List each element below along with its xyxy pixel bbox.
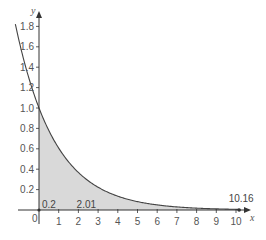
x-tick-label: 9 xyxy=(214,216,220,227)
x-tick-label: 3 xyxy=(95,216,101,227)
y-axis-label: y xyxy=(30,5,36,16)
y-axis-arrow-icon xyxy=(36,11,42,18)
y-tick-label: 1.0 xyxy=(20,103,34,114)
origin-label: 0 xyxy=(32,213,38,224)
shaded-area xyxy=(39,108,239,210)
annotation-label: 0.2 xyxy=(42,199,56,210)
x-tick-label: 8 xyxy=(194,216,200,227)
x-tick-label: 7 xyxy=(174,216,180,227)
y-tick-label: 1.2 xyxy=(20,82,34,93)
x-tick-label: 6 xyxy=(154,216,160,227)
y-tick-label: 0.2 xyxy=(20,184,34,195)
annotation-label: 10.16 xyxy=(229,193,254,204)
y-tick-label: 0.4 xyxy=(20,164,34,175)
x-tick-label: 2 xyxy=(76,216,82,227)
y-tick-label: 1.6 xyxy=(20,41,34,52)
chart: xy0 123456789100.20.40.60.81.01.21.41.61… xyxy=(0,0,266,240)
x-tick-label: 4 xyxy=(115,216,121,227)
x-axis-label: x xyxy=(249,212,255,223)
shaded-region xyxy=(39,108,239,210)
annotation-label: 2.01 xyxy=(77,199,97,210)
x-tick-label: 5 xyxy=(135,216,141,227)
y-tick-label: 0.6 xyxy=(20,143,34,154)
origin-dot xyxy=(37,208,40,211)
x-tick-label: 1 xyxy=(56,216,62,227)
y-tick-label: 1.8 xyxy=(20,21,34,32)
endpoint-dot xyxy=(237,208,241,212)
y-tick-label: 1.4 xyxy=(20,62,34,73)
x-tick-label: 10 xyxy=(230,216,242,227)
y-tick-label: 0.8 xyxy=(20,123,34,134)
